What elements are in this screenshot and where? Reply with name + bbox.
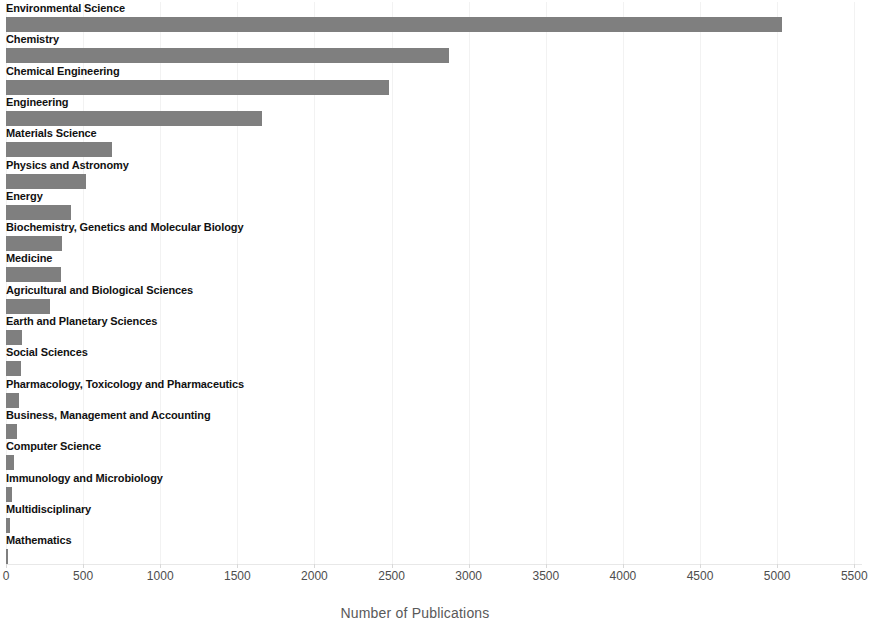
bar: [6, 142, 112, 157]
bar: [6, 299, 50, 314]
bar-category-label: Computer Science: [6, 440, 101, 453]
x-tick-label: 2500: [378, 569, 405, 583]
bar: [6, 361, 21, 376]
bar: [6, 48, 449, 63]
x-tick-mark: [777, 564, 778, 568]
x-tick-mark: [700, 564, 701, 568]
bar: [6, 267, 61, 282]
bar-row: Pharmacology, Toxicology and Pharmaceuti…: [6, 378, 862, 410]
bar-category-label: Engineering: [6, 96, 68, 109]
x-tick-label: 5500: [841, 569, 868, 583]
x-tick-label: 4000: [610, 569, 637, 583]
x-tick-mark: [623, 564, 624, 568]
bar: [6, 80, 389, 95]
bar-row: Environmental Science: [6, 2, 862, 34]
bar-category-label: Physics and Astronomy: [6, 159, 129, 172]
bar-category-label: Materials Science: [6, 127, 97, 140]
bar-row: Chemistry: [6, 33, 862, 65]
bar-category-label: Agricultural and Biological Sciences: [6, 284, 193, 297]
bar-category-label: Energy: [6, 190, 43, 203]
bar-row: Computer Science: [6, 440, 862, 472]
bar-category-label: Medicine: [6, 252, 52, 265]
bar-row: Chemical Engineering: [6, 65, 862, 97]
plot-area: Environmental ScienceChemistryChemical E…: [6, 2, 862, 564]
bar-category-label: Pharmacology, Toxicology and Pharmaceuti…: [6, 378, 244, 391]
bar-category-label: Mathematics: [6, 534, 72, 547]
x-tick-mark: [469, 564, 470, 568]
x-axis-line: [6, 564, 862, 565]
bar-category-label: Immunology and Microbiology: [6, 472, 163, 485]
bar-category-label: Chemical Engineering: [6, 65, 120, 78]
x-tick-mark: [160, 564, 161, 568]
bar: [6, 487, 12, 502]
bar-category-label: Biochemistry, Genetics and Molecular Bio…: [6, 221, 243, 234]
bar-row: Business, Management and Accounting: [6, 409, 862, 441]
bar-row: Social Sciences: [6, 346, 862, 378]
x-tick-mark: [392, 564, 393, 568]
x-tick-label: 0: [3, 569, 10, 583]
bar: [6, 518, 10, 533]
x-tick-mark: [237, 564, 238, 568]
bar-row: Energy: [6, 190, 862, 222]
bar-row: Immunology and Microbiology: [6, 472, 862, 504]
bar: [6, 330, 22, 345]
bar-chart: Environmental ScienceChemistryChemical E…: [0, 0, 874, 631]
bar-row: Physics and Astronomy: [6, 159, 862, 191]
bar-row: Mathematics: [6, 534, 862, 566]
bar: [6, 111, 262, 126]
x-tick-label: 500: [73, 569, 93, 583]
bar: [6, 393, 19, 408]
x-tick-label: 3500: [532, 569, 559, 583]
x-tick-label: 3000: [455, 569, 482, 583]
bar: [6, 455, 14, 470]
x-tick-label: 4500: [687, 569, 714, 583]
x-tick-mark: [546, 564, 547, 568]
x-tick-mark: [6, 564, 7, 568]
bar-category-label: Social Sciences: [6, 346, 88, 359]
bar-row: Earth and Planetary Sciences: [6, 315, 862, 347]
x-tick-label: 1500: [224, 569, 251, 583]
x-axis-title: Number of Publications: [0, 605, 874, 621]
bar-row: Medicine: [6, 252, 862, 284]
bar-category-label: Business, Management and Accounting: [6, 409, 211, 422]
bar-row: Agricultural and Biological Sciences: [6, 284, 862, 316]
x-tick-mark: [83, 564, 84, 568]
bar: [6, 17, 782, 32]
bar-category-label: Earth and Planetary Sciences: [6, 315, 157, 328]
bar: [6, 424, 17, 439]
x-tick-mark: [854, 564, 855, 568]
bar-row: Engineering: [6, 96, 862, 128]
bar: [6, 205, 71, 220]
x-tick-label: 1000: [147, 569, 174, 583]
bar: [6, 174, 86, 189]
bar-row: Biochemistry, Genetics and Molecular Bio…: [6, 221, 862, 253]
bar: [6, 549, 8, 564]
bar-category-label: Environmental Science: [6, 2, 125, 15]
bar-category-label: Chemistry: [6, 33, 59, 46]
x-tick-label: 2000: [301, 569, 328, 583]
bar-row: Multidisciplinary: [6, 503, 862, 535]
bar: [6, 236, 62, 251]
x-tick-mark: [314, 564, 315, 568]
x-tick-label: 5000: [764, 569, 791, 583]
bar-category-label: Multidisciplinary: [6, 503, 91, 516]
bar-row: Materials Science: [6, 127, 862, 159]
x-axis-title-label: Number of Publications: [340, 605, 489, 621]
